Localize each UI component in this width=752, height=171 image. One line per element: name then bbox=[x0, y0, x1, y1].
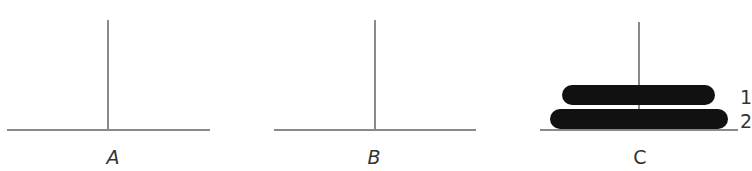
peg-a-label: A bbox=[105, 146, 120, 168]
disk-1-label: 1 bbox=[740, 86, 752, 108]
peg-c: C 1 2 bbox=[540, 22, 752, 168]
peg-a: A bbox=[7, 20, 210, 168]
disk-2-label: 2 bbox=[740, 110, 752, 132]
tower-of-hanoi-diagram: A B C 1 2 bbox=[0, 0, 752, 171]
disk-2[interactable] bbox=[550, 109, 728, 129]
disk-1[interactable] bbox=[562, 85, 715, 105]
peg-b: B bbox=[274, 20, 476, 168]
peg-b-label: B bbox=[367, 146, 380, 168]
peg-c-label: C bbox=[633, 146, 646, 168]
